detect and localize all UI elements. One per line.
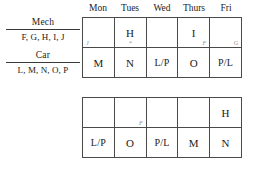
cell-value: I xyxy=(192,27,196,39)
cell-g2-r2-wed[interactable]: P/L xyxy=(147,128,179,157)
cell-value: M xyxy=(93,57,103,69)
cell-g2-r1-mon[interactable] xyxy=(83,98,115,127)
cell-value: H xyxy=(126,27,134,39)
legend-group-mech: Mech F, G, H, I, J xyxy=(6,16,80,43)
cell-g1-r2-thurs[interactable]: O xyxy=(178,48,210,77)
legend-members-car: L, M, N, O, P xyxy=(6,64,80,76)
cell-annotation: F xyxy=(139,120,143,127)
cell-g2-r2-thurs[interactable]: M xyxy=(178,128,210,157)
cell-value: L/P xyxy=(154,57,169,69)
legend-title-car: Car xyxy=(6,49,80,61)
cell-annotation: * xyxy=(129,40,132,47)
day-header-wed: Wed xyxy=(146,2,178,15)
cell-value: H xyxy=(222,107,230,119)
cell-g2-r1-wed[interactable] xyxy=(147,98,179,127)
cell-g1-r1-wed[interactable] xyxy=(147,18,179,47)
table-row: L/P O P/L M N xyxy=(83,128,241,157)
cell-g2-r2-fri[interactable]: N xyxy=(210,128,241,157)
cell-g2-r2-tues[interactable]: O xyxy=(115,128,147,157)
cell-value: O xyxy=(126,137,134,149)
cell-g1-r1-mon[interactable]: J xyxy=(83,18,115,47)
cell-value: M xyxy=(189,137,199,149)
cell-annotation: J xyxy=(86,40,89,47)
cell-g2-r1-fri[interactable]: H xyxy=(210,98,241,127)
cell-g2-r2-mon[interactable]: L/P xyxy=(83,128,115,157)
legend-title-mech: Mech xyxy=(6,16,80,28)
cell-value: N xyxy=(126,57,134,69)
day-header-tues: Tues xyxy=(114,2,146,15)
cell-g1-r1-tues[interactable]: H * xyxy=(115,18,147,47)
table-row: M N L/P O P/L xyxy=(83,48,241,77)
cell-value: L/P xyxy=(91,137,106,149)
schedule-grid-1: J H * I F G M N xyxy=(82,17,242,78)
cell-g1-r2-fri[interactable]: P/L xyxy=(210,48,241,77)
legend-members-mech: F, G, H, I, J xyxy=(6,31,80,43)
cell-annotation: F xyxy=(203,40,207,47)
day-header-mon: Mon xyxy=(82,2,114,15)
cell-g1-r1-fri[interactable]: G xyxy=(210,18,241,47)
legend-block: Mech F, G, H, I, J Car L, M, N, O, P xyxy=(6,16,80,82)
puzzle-worksheet: Mech F, G, H, I, J Car L, M, N, O, P Mon… xyxy=(0,0,255,178)
cell-value: N xyxy=(222,137,230,149)
cell-g2-r1-tues[interactable]: F xyxy=(115,98,147,127)
legend-rule-car xyxy=(6,62,80,63)
table-row: F H xyxy=(83,98,241,128)
table-row: J H * I F G xyxy=(83,18,241,48)
cell-g2-r1-thurs[interactable] xyxy=(178,98,210,127)
legend-rule-mech xyxy=(6,29,80,30)
cell-g1-r2-mon[interactable]: M xyxy=(83,48,115,77)
day-header-thurs: Thurs xyxy=(178,2,210,15)
cell-value: P/L xyxy=(218,57,233,69)
cell-annotation: G xyxy=(234,40,238,47)
legend-group-car: Car L, M, N, O, P xyxy=(6,49,80,76)
day-header-fri: Fri xyxy=(210,2,242,15)
cell-value: P/L xyxy=(154,137,169,149)
cell-g1-r1-thurs[interactable]: I F xyxy=(178,18,210,47)
cell-g1-r2-wed[interactable]: L/P xyxy=(147,48,179,77)
day-header-row: Mon Tues Wed Thurs Fri xyxy=(82,2,242,15)
cell-value: O xyxy=(190,57,198,69)
cell-g1-r2-tues[interactable]: N xyxy=(115,48,147,77)
schedule-grid-2: F H L/P O P/L xyxy=(82,97,242,158)
